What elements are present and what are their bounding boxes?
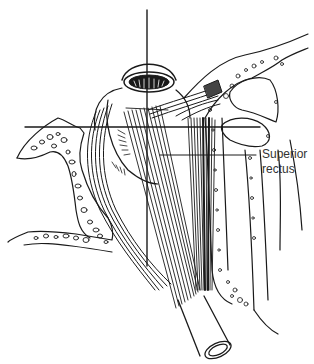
superior-rectus-label: Superior rectus: [262, 147, 307, 177]
label-line-1: Superior: [262, 147, 307, 162]
label-line-2: rectus: [262, 162, 307, 177]
left-orbital-bone: [8, 118, 113, 252]
axis-lines: [25, 10, 260, 266]
orbit-illustration: [0, 0, 314, 364]
optic-nerve: [178, 296, 234, 362]
anatomy-figure: Superior rectus: [0, 0, 314, 364]
central-muscle-cone: [124, 106, 215, 308]
right-orbital-bone: [184, 34, 308, 334]
